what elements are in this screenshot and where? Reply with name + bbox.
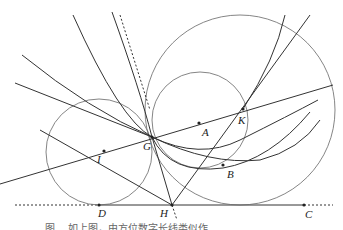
label-b: B <box>227 168 234 180</box>
point-i <box>102 149 105 152</box>
line-hk <box>172 15 310 205</box>
point-a <box>197 121 200 124</box>
point-k <box>241 107 244 110</box>
figure-caption: 图 ... 如上图，由方位数字长线类似作… <box>45 222 218 230</box>
point-b <box>221 163 224 166</box>
label-d: D <box>97 207 106 219</box>
point-g <box>150 135 153 138</box>
label-a: A <box>201 126 209 138</box>
arc-from-k-up <box>243 15 285 109</box>
label-i: I <box>96 153 102 165</box>
geometry-diagram: A B C D G H I K 图 ... 如上图，由方位数字长线类似作… <box>0 0 343 230</box>
label-h: H <box>159 207 169 219</box>
label-g: G <box>143 140 151 152</box>
curve-upper-left <box>73 15 318 149</box>
circle-small-left <box>46 99 152 205</box>
point-h <box>170 203 173 206</box>
point-c <box>302 203 305 206</box>
dashed-below-h <box>172 205 177 220</box>
line-h-left <box>40 130 172 205</box>
dashed-tangent <box>120 15 150 110</box>
circle-large <box>145 15 335 205</box>
curve-from-top <box>112 12 152 137</box>
line-iak <box>0 85 333 184</box>
label-k: K <box>237 114 246 126</box>
label-c: C <box>305 208 313 220</box>
